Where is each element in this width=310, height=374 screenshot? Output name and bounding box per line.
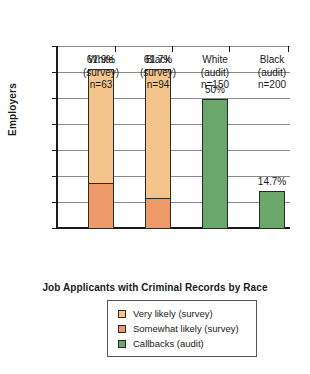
x-category-line-1: White [183,54,247,67]
x-category-black-survey: Black (survey) n=94 [126,54,190,92]
legend-swatch-somewhat-likely [118,325,126,333]
x-tick-mark-2 [172,46,173,52]
y-axis-line [56,46,58,229]
legend-swatch-callbacks [118,340,126,348]
x-category-line-2: (audit) [183,67,247,80]
x-axis-title: Job Applicants with Criminal Records by … [0,282,310,293]
legend-item-very-likely[interactable]: Very likely (survey) [118,306,256,321]
bar-segment-somewhat-likely[interactable] [145,198,171,229]
bar-white-survey[interactable]: 61.9% [88,69,114,228]
legend-item-somewhat-likely[interactable]: Somewhat likely (survey) [118,321,256,336]
x-category-line-1: Black [240,54,304,67]
bar-black-audit[interactable]: 14.7% [259,191,285,228]
x-category-line-2: (audit) [240,67,304,80]
plot-area: 70.0% 60.0% 50.0% 40.0% 30.0% 20.0% 10.0… [57,46,290,228]
bar-white-audit[interactable]: 50% [202,99,228,228]
chart-legend: Very likely (survey) Somewhat likely (su… [107,300,257,357]
x-category-black-audit: Black (audit) n=200 [240,54,304,92]
bar-segment-callbacks[interactable] [202,99,228,229]
x-category-line-3: n=150 [183,79,247,92]
bar-label-black-audit: 14.7% [258,176,286,187]
x-category-line-3: n=63 [69,79,133,92]
x-tick-mark-0 [57,46,58,52]
x-tick-mark-4 [288,46,289,52]
x-category-line-3: n=200 [240,79,304,92]
y-axis-title: Employers [7,74,18,146]
gridline-70 [57,46,290,47]
x-category-line-1: White [69,54,133,67]
x-category-white-survey: White (survey) n=63 [69,54,133,92]
bar-segment-callbacks[interactable] [259,191,285,229]
legend-label-somewhat-likely: Somewhat likely (survey) [133,324,239,334]
legend-swatch-very-likely [118,310,126,318]
legend-label-callbacks: Callbacks (audit) [133,339,204,349]
x-tick-mark-3 [229,46,230,52]
legend-item-callbacks[interactable]: Callbacks (audit) [118,336,256,351]
x-tick-mark-1 [115,46,116,52]
x-category-line-2: (survey) [126,67,190,80]
x-category-white-audit: White (audit) n=150 [183,54,247,92]
bar-chart: Employers Job Applicants with Criminal R… [0,0,310,374]
legend-label-very-likely: Very likely (survey) [133,309,213,319]
bar-black-survey[interactable]: 61.7% [145,69,171,228]
x-category-line-2: (survey) [69,67,133,80]
x-category-line-1: Black [126,54,190,67]
bar-segment-somewhat-likely[interactable] [88,183,114,229]
x-category-line-3: n=94 [126,79,190,92]
